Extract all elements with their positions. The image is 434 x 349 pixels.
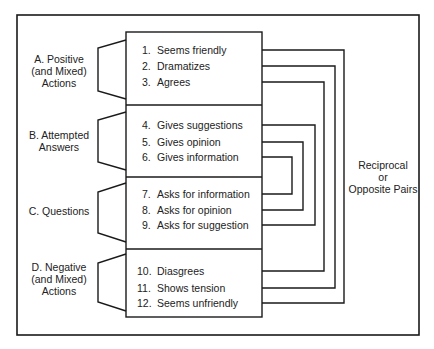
item-text: Gives suggestions (157, 119, 243, 131)
item-number: 10. (137, 265, 152, 277)
right-label-line: Opposite Pairs (349, 183, 418, 195)
item-text: Diasgrees (157, 265, 204, 277)
bracket-a (98, 40, 126, 99)
group-label-line: C. Questions (29, 205, 90, 217)
item-text: Gives opinion (157, 136, 221, 148)
interaction-categories-diagram: A. Positive (and Mixed) Actions B. Attem… (0, 0, 434, 349)
category-item-10: 10. Diasgrees (137, 265, 204, 277)
group-label-b: B. Attempted Answers (29, 129, 89, 153)
item-number: 3. (142, 76, 151, 88)
category-item-11: 11. Shows tension (137, 282, 225, 294)
item-text: Asks for opinion (157, 204, 232, 216)
category-item-7: 7. Asks for information (142, 188, 250, 200)
category-item-9: 9. Asks for suggestion (142, 219, 249, 231)
item-number: 5. (142, 136, 151, 148)
item-number: 8. (142, 204, 151, 216)
item-text: Agrees (157, 76, 190, 88)
category-item-8: 8. Asks for opinion (142, 204, 232, 216)
group-label-line: D. Negative (32, 261, 87, 273)
group-label-c: C. Questions (29, 205, 90, 217)
group-label-line: Actions (42, 77, 76, 89)
item-number: 2. (142, 60, 151, 72)
item-text: Dramatizes (157, 60, 210, 72)
group-label-line: A. Positive (34, 53, 84, 65)
category-item-2: 2. Dramatizes (142, 60, 210, 72)
group-label-line: (and Mixed) (31, 65, 86, 77)
bracket-d (98, 254, 126, 311)
category-item-6: 6. Gives information (142, 151, 239, 163)
group-label-line: Actions (42, 285, 76, 297)
category-item-4: 4. Gives suggestions (142, 119, 243, 131)
group-label-line: (and Mixed) (31, 273, 86, 285)
group-label-line: B. Attempted (29, 129, 89, 141)
connector-5-8 (262, 142, 303, 210)
group-label-a: A. Positive (and Mixed) Actions (31, 53, 86, 89)
item-number: 1. (142, 44, 151, 56)
category-item-12: 12. Seems unfriendly (137, 297, 239, 309)
category-item-1: 1. Seems friendly (142, 44, 227, 56)
item-number: 9. (142, 219, 151, 231)
item-number: 11. (137, 282, 151, 294)
item-text: Seems friendly (157, 44, 227, 56)
connector-6-7 (262, 157, 292, 194)
group-label-line: Answers (39, 141, 79, 153)
item-number: 12. (137, 297, 152, 309)
bracket-b (98, 112, 126, 170)
bracket-c (98, 183, 126, 242)
category-item-3: 3. Agrees (142, 76, 190, 88)
right-label-line: Reciprocal (358, 159, 408, 171)
item-text: Seems unfriendly (157, 297, 239, 309)
item-number: 4. (142, 119, 151, 131)
group-label-d: D. Negative (and Mixed) Actions (31, 261, 86, 297)
right-label-line: or (378, 171, 388, 183)
item-text: Asks for suggestion (157, 219, 249, 231)
item-text: Shows tension (157, 282, 225, 294)
item-text: Gives information (157, 151, 239, 163)
item-number: 6. (142, 151, 151, 163)
item-number: 7. (142, 188, 151, 200)
item-text: Asks for information (157, 188, 250, 200)
category-item-5: 5. Gives opinion (142, 136, 221, 148)
